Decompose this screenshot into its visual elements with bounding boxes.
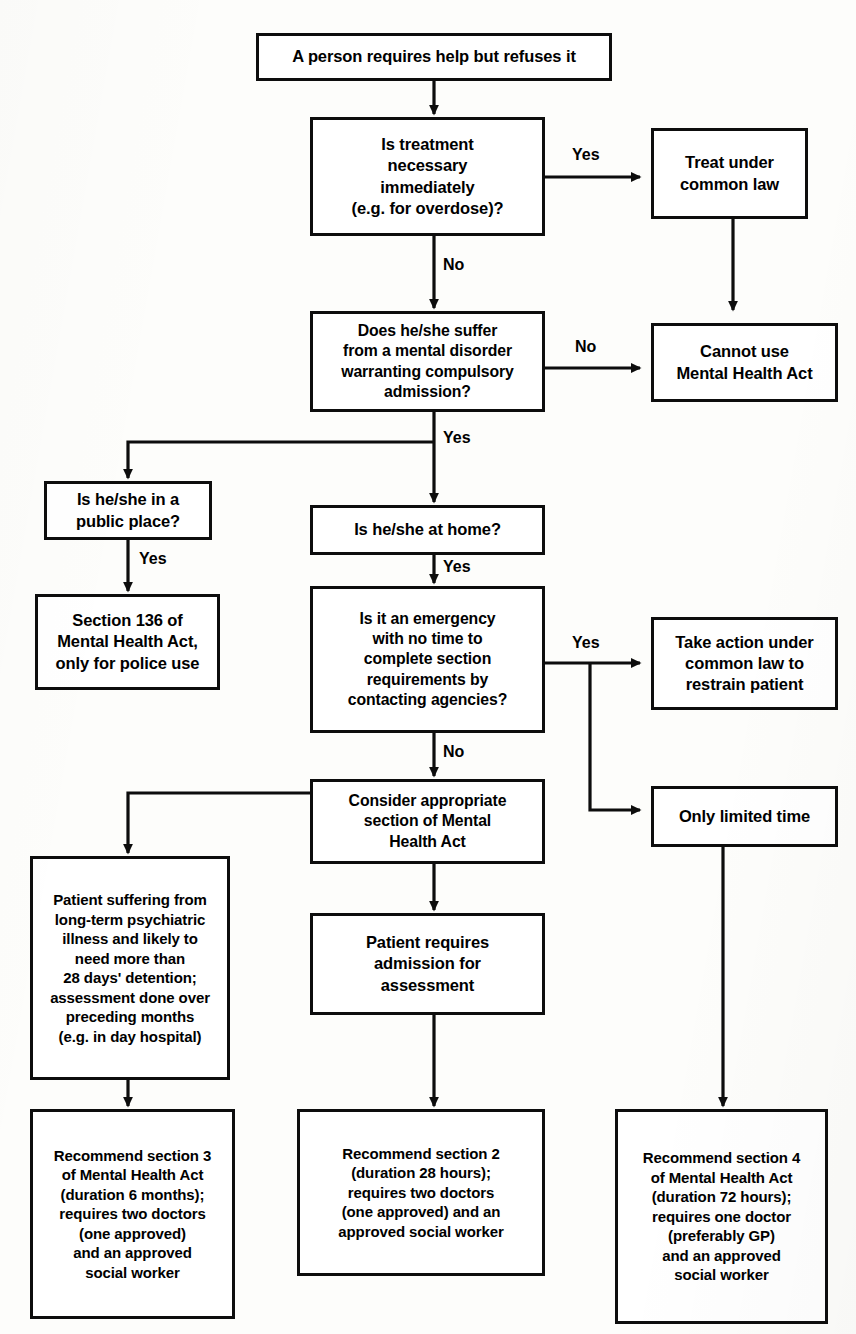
edge-label-disorder-no: No [575, 338, 596, 356]
node-treat-common-law-label: Treat under common law [654, 152, 805, 194]
node-treatment-necessary-label: Is treatment necessary immediately (e.g.… [313, 134, 542, 218]
node-mental-disorder[interactable]: Does he/she suffer from a mental disorde… [310, 311, 545, 412]
node-public-place[interactable]: Is he/she in a public place? [44, 481, 212, 540]
edge-disorder-yes-bus [128, 442, 434, 478]
node-emergency[interactable]: Is it an emergency with no time to compl… [310, 586, 545, 733]
flowchart-canvas: A person requires help but refuses it Is… [0, 0, 856, 1334]
node-mental-disorder-label: Does he/she suffer from a mental disorde… [313, 321, 542, 402]
edge-label-emergency-yes: Yes [572, 634, 600, 652]
node-recommend-section-2-label: Recommend section 2 (duration 28 hours);… [300, 1144, 542, 1242]
edge-label-at-home-yes: Yes [443, 558, 471, 576]
node-recommend-section-4-label: Recommend section 4 of Mental Health Act… [618, 1148, 825, 1285]
node-recommend-section-2[interactable]: Recommend section 2 (duration 28 hours);… [297, 1109, 545, 1276]
node-cannot-use-mha-label: Cannot use Mental Health Act [654, 341, 835, 383]
node-cannot-use-mha[interactable]: Cannot use Mental Health Act [651, 323, 838, 402]
node-requires-admission-label: Patient requires admission for assessmen… [313, 932, 542, 995]
node-public-place-label: Is he/she in a public place? [47, 489, 209, 531]
node-consider-section[interactable]: Consider appropriate section of Mental H… [310, 779, 545, 864]
node-at-home-label: Is he/she at home? [313, 519, 542, 540]
node-long-term[interactable]: Patient suffering from long-term psychia… [30, 856, 230, 1080]
edge-label-treatment-yes: Yes [572, 146, 600, 164]
node-take-action-common-law-label: Take action under common law to restrain… [654, 632, 835, 695]
edge-label-emergency-no: No [443, 743, 464, 761]
node-treatment-necessary[interactable]: Is treatment necessary immediately (e.g.… [310, 117, 545, 236]
edge-label-disorder-yes: Yes [443, 429, 471, 447]
node-section-136[interactable]: Section 136 of Mental Health Act, only f… [35, 594, 220, 690]
edge-label-treatment-no: No [443, 256, 464, 274]
edge-emergency-yes-drop [590, 663, 640, 810]
node-only-limited-time[interactable]: Only limited time [651, 786, 838, 847]
node-requires-admission[interactable]: Patient requires admission for assessmen… [310, 913, 545, 1015]
node-emergency-label: Is it an emergency with no time to compl… [313, 609, 542, 710]
node-take-action-common-law[interactable]: Take action under common law to restrain… [651, 617, 838, 710]
node-consider-section-label: Consider appropriate section of Mental H… [313, 791, 542, 852]
node-recommend-section-3[interactable]: Recommend section 3 of Mental Health Act… [30, 1109, 235, 1319]
edge-label-public-place-yes: Yes [139, 550, 167, 568]
node-start-label: A person requires help but refuses it [259, 46, 609, 67]
node-treat-common-law[interactable]: Treat under common law [651, 128, 808, 219]
node-recommend-section-4[interactable]: Recommend section 4 of Mental Health Act… [615, 1109, 828, 1324]
node-only-limited-time-label: Only limited time [654, 806, 835, 827]
node-section-136-label: Section 136 of Mental Health Act, only f… [38, 610, 217, 673]
node-recommend-section-3-label: Recommend section 3 of Mental Health Act… [33, 1146, 232, 1283]
node-at-home[interactable]: Is he/she at home? [310, 505, 545, 555]
edge-consider-left [128, 793, 310, 853]
node-start[interactable]: A person requires help but refuses it [256, 33, 612, 81]
node-long-term-label: Patient suffering from long-term psychia… [33, 890, 227, 1046]
